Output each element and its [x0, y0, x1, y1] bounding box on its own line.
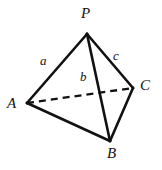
vertex-label-B: B: [107, 146, 116, 161]
edge-label-b: b: [80, 70, 87, 83]
edge-PB: [87, 34, 110, 141]
vertex-point-B: [109, 140, 112, 143]
edge-PA: [27, 34, 87, 103]
tetrahedron-figure: P A B C a b c: [0, 0, 162, 170]
edge-BC: [110, 88, 133, 141]
vertex-point-P: [86, 33, 89, 36]
edge-label-a: a: [40, 54, 47, 67]
edge-AB: [27, 103, 110, 141]
vertex-point-C: [132, 87, 135, 90]
vertex-label-P: P: [81, 6, 90, 21]
edge-AC-dashed: [27, 88, 133, 103]
tetrahedron-drawing: [0, 0, 162, 170]
vertex-label-A: A: [7, 96, 16, 111]
edge-label-c: c: [113, 49, 119, 62]
vertex-label-C: C: [140, 78, 150, 93]
vertex-point-A: [26, 102, 29, 105]
